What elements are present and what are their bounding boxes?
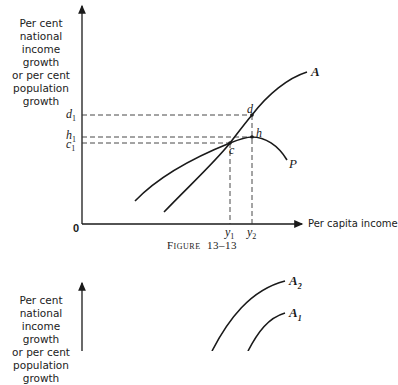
curve-A1 [248, 313, 285, 351]
point-label-d: d [247, 102, 253, 117]
curve-label-A1: A1 [289, 305, 302, 323]
point-label-h: h [256, 126, 262, 141]
y-label-line: or per cent [2, 346, 80, 359]
curve-label-A2: A2 [289, 273, 302, 291]
y-tick-c1: c1 [66, 137, 75, 153]
y-label-line: income growth [2, 43, 80, 69]
point-label-c: c [229, 143, 234, 158]
y-label-line: population growth [2, 359, 80, 385]
point-h [250, 135, 254, 139]
dashed-guides [82, 115, 252, 224]
origin-label: 0 [73, 222, 79, 234]
curve-label-A: A [311, 64, 320, 80]
y-label-line: income growth [2, 320, 80, 346]
y-axis-label: Per cent national income growth or per c… [2, 17, 80, 108]
x-axis-label: Per capita income [308, 218, 398, 229]
y-tick-d1: d1 [66, 107, 76, 123]
y-label-line: Per cent national [2, 294, 80, 320]
curve-A2 [212, 281, 285, 351]
y-label-line: or per cent [2, 69, 80, 82]
curve-label-P: P [289, 156, 297, 172]
y-label-line: population growth [2, 82, 80, 108]
figure-caption: Figure 13–13 [167, 239, 237, 251]
y-label-line: Per cent national [2, 17, 80, 43]
y-axis-label-2: Per cent national income growth or per c… [2, 294, 80, 385]
curve-P [135, 137, 287, 201]
curve-A [164, 72, 307, 212]
x-tick-y2: y2 [247, 225, 256, 241]
